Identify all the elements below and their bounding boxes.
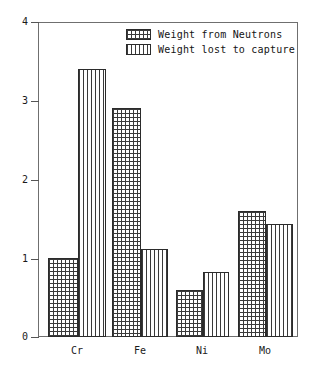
y-tick-label-4: 4 — [4, 17, 28, 27]
y-tick-0 — [31, 337, 39, 338]
x-tick-label-fe: Fe — [110, 345, 170, 356]
legend-entry-weight-from-neutrons: Weight from Neutrons — [126, 28, 295, 40]
bar-fe-weight-lost-to-capture — [141, 249, 168, 337]
bar-cr-weight-from-neutrons — [48, 258, 78, 337]
y-tick-3 — [31, 101, 39, 102]
y-tick-label-2: 2 — [4, 175, 28, 185]
bar-ni-weight-lost-to-capture — [203, 272, 229, 337]
x-tick-label-mo: Mo — [235, 345, 295, 356]
legend-label-weight-lost-to-capture: Weight lost to capture — [158, 44, 295, 55]
legend-entry-weight-lost-to-capture: Weight lost to capture — [126, 43, 295, 55]
bar-cr-weight-lost-to-capture — [78, 69, 106, 337]
x-tick-label-ni: Ni — [172, 345, 232, 356]
y-tick-1 — [31, 259, 39, 260]
y-tick-label-0: 0 — [4, 332, 28, 342]
bar-mo-weight-lost-to-capture — [266, 224, 293, 337]
bar-chart: 4 3 2 1 0 Cr Fe Ni Mo Weight from Neutro… — [0, 0, 310, 373]
chart-legend: Weight from Neutrons Weight lost to capt… — [126, 28, 295, 55]
bar-ni-weight-from-neutrons — [176, 290, 203, 337]
bar-fe-weight-from-neutrons — [112, 108, 141, 337]
legend-label-weight-from-neutrons: Weight from Neutrons — [158, 29, 282, 40]
legend-swatch-crosshatch-icon — [126, 29, 151, 40]
y-tick-2 — [31, 180, 39, 181]
y-tick-label-1: 1 — [4, 254, 28, 264]
bar-mo-weight-from-neutrons — [238, 211, 266, 337]
y-tick-label-3: 3 — [4, 96, 28, 106]
legend-swatch-vertical-lines-icon — [126, 44, 151, 55]
x-tick-label-cr: Cr — [47, 345, 107, 356]
y-tick-4 — [31, 22, 39, 23]
